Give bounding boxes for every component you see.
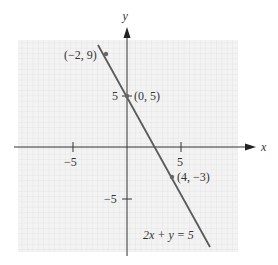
tick-label-y-neg5: −5	[104, 192, 117, 206]
tick-label-x-neg5: −5	[64, 155, 77, 169]
equation-label: 2x + y = 5	[143, 228, 194, 242]
point-0-5	[125, 94, 129, 98]
point-label-neg2-9: (−2, 9)	[64, 48, 97, 62]
point-4-neg3	[170, 175, 174, 179]
grid-background	[18, 40, 238, 252]
point-neg2-9	[104, 52, 108, 56]
tick-label-x-5: 5	[177, 155, 183, 169]
y-axis-arrow-icon	[124, 27, 131, 38]
x-axis-arrow-icon	[245, 144, 256, 151]
tick-label-y-5: 5	[112, 89, 118, 103]
graph-canvas: x y −5 5 5 −5 (−2, 9) (0, 5) (4, −3) 2x …	[0, 0, 278, 265]
point-label-0-5: (0, 5)	[134, 89, 160, 103]
y-axis-label: y	[122, 9, 129, 23]
point-label-4-neg3: (4, −3)	[177, 170, 210, 184]
x-axis-label: x	[260, 140, 267, 154]
